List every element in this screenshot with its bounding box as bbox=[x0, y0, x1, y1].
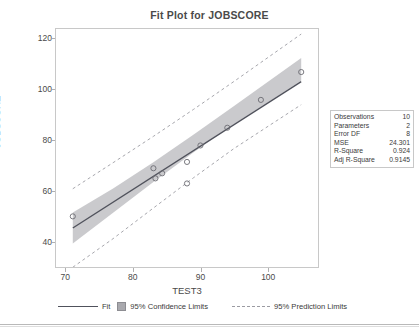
stats-row-value: 0.924 bbox=[393, 147, 410, 156]
y-tick-label: 40 bbox=[18, 237, 52, 247]
y-tick-label: 100 bbox=[18, 84, 52, 94]
stats-row: Parameters2 bbox=[334, 122, 410, 131]
x-tick-mark bbox=[133, 268, 134, 272]
y-tick-label: 120 bbox=[18, 33, 52, 43]
legend-item-confidence[interactable]: 95% Confidence Limits bbox=[117, 302, 208, 311]
y-axis: 406080100120 bbox=[0, 0, 52, 331]
regression-fit-line bbox=[73, 82, 301, 228]
x-tick-label: 90 bbox=[196, 272, 205, 282]
legend-label-confidence: 95% Confidence Limits bbox=[130, 302, 208, 311]
x-tick-mark bbox=[201, 268, 202, 272]
fit-statistics-box: Observations10Parameters2Error DF8MSE24.… bbox=[330, 110, 414, 168]
data-point-marker bbox=[184, 181, 189, 186]
plot-canvas bbox=[56, 29, 318, 267]
fit-line-group bbox=[73, 82, 301, 228]
stats-row: Error DF8 bbox=[334, 130, 410, 139]
stats-row-key: R-Square bbox=[334, 147, 367, 156]
y-tick-label: 80 bbox=[18, 135, 52, 145]
legend-label-prediction: 95% Prediction Limits bbox=[274, 302, 347, 311]
y-tick-label: 60 bbox=[18, 186, 52, 196]
page-title: Fit Plot for JOBSCORE bbox=[0, 9, 419, 21]
stats-row: R-Square0.924 bbox=[334, 147, 410, 156]
x-tick-mark bbox=[65, 268, 66, 272]
legend-item-fit[interactable]: Fit bbox=[58, 302, 110, 311]
fit-line-icon bbox=[58, 306, 98, 307]
legend-label-fit: Fit bbox=[102, 302, 110, 311]
x-tick-label: 100 bbox=[261, 272, 275, 282]
stats-row-key: MSE bbox=[334, 139, 353, 148]
confidence-band-area bbox=[73, 58, 301, 243]
stats-row-key: Parameters bbox=[334, 122, 373, 131]
confidence-band-icon bbox=[117, 302, 126, 311]
fit-plot-page: Fit Plot for JOBSCORE 406080100120 70809… bbox=[0, 0, 419, 331]
confidence-band bbox=[73, 58, 301, 243]
prediction-upper-line bbox=[73, 34, 301, 189]
plot-area bbox=[55, 28, 319, 268]
legend-item-prediction[interactable]: 95% Prediction Limits bbox=[232, 302, 347, 311]
stats-row-value: 24.301 bbox=[389, 139, 410, 148]
stats-row-key: Observations bbox=[334, 113, 378, 122]
chart-legend: Fit 95% Confidence Limits 95% Prediction… bbox=[55, 302, 350, 311]
stats-row-value: 0.9145 bbox=[389, 156, 410, 165]
stats-row-value: 2 bbox=[406, 122, 410, 131]
stats-row: MSE24.301 bbox=[334, 139, 410, 148]
stats-row-key: Adj R-Square bbox=[334, 156, 379, 165]
page-divider bbox=[0, 324, 419, 325]
x-tick-label: 70 bbox=[60, 272, 69, 282]
stats-row-key: Error DF bbox=[334, 130, 364, 139]
stats-row-value: 8 bbox=[406, 130, 410, 139]
x-axis-label: TEST3 bbox=[55, 285, 319, 296]
stats-row-value: 10 bbox=[402, 113, 410, 122]
x-tick-label: 80 bbox=[128, 272, 137, 282]
x-tick-mark bbox=[268, 268, 269, 272]
data-point-marker bbox=[184, 159, 189, 164]
y-axis-label: JOBSCORE bbox=[0, 96, 2, 148]
stats-row: Observations10 bbox=[334, 113, 410, 122]
stats-row: Adj R-Square0.9145 bbox=[334, 156, 410, 165]
prediction-limits-icon bbox=[232, 306, 270, 307]
page-divider-secondary bbox=[0, 326, 419, 327]
